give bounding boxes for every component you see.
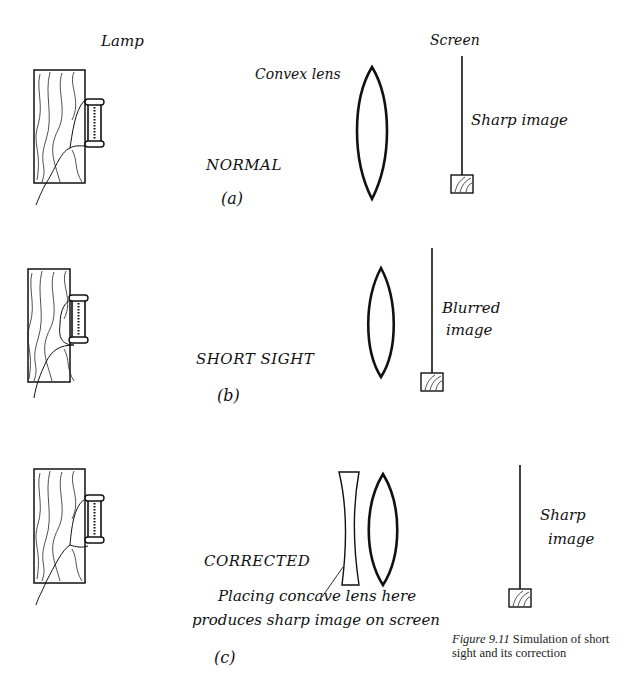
figure-number: Figure 9.11 [452,632,510,646]
lamp-label: Lamp [101,32,144,50]
sharp-label-line2: image [548,530,594,548]
diagram-canvas [0,0,628,688]
panel-label-b: (b) [217,386,240,405]
wooden-board [28,269,74,398]
convex-lens-icon [357,67,387,199]
concave-note-line1: Placing concave lens here [218,587,416,605]
convex-lens-label: Convex lens [255,66,341,82]
screen-stand-icon [451,175,473,193]
screen-stand-icon [509,589,531,607]
blurred-label-line2: image [446,321,492,339]
convex-lens-icon [368,268,394,377]
convex-lens-icon [369,474,398,585]
screen-label: Screen [430,32,480,48]
wooden-board [34,469,88,605]
panel-label-c: (c) [214,648,235,667]
screen-stand-icon [421,373,443,391]
figure-caption: Figure 9.11 Simulation of short sight an… [452,632,622,660]
panel-title-short-sight: SHORT SIGHT [196,350,314,368]
panel-label-a: (a) [221,189,243,208]
panel-title-normal: NORMAL [206,156,282,174]
sharp-label-line1: Sharp [540,506,586,524]
panel-a [34,56,473,205]
blurred-label-line1: Blurred [442,299,500,317]
sharp-image-label: Sharp image [471,111,568,129]
panel-c [34,465,531,607]
panel-b [28,248,443,398]
wooden-board [34,70,88,205]
panel-title-corrected: CORRECTED [204,552,310,570]
lamp-icon [85,99,104,147]
lamp-icon [85,495,104,543]
lamp-icon [69,295,88,343]
concave-note-line2: produces sharp image on screen [192,611,440,629]
